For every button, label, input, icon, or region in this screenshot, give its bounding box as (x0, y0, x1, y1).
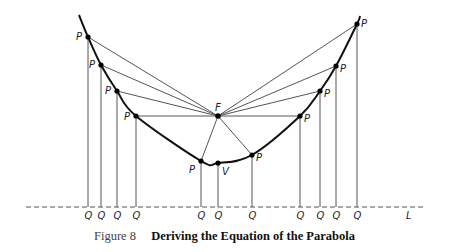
point-P (297, 113, 302, 118)
label-P: P (340, 63, 347, 74)
labels: PQPQPQPQPQPQPQPQPQPQVQFL (76, 18, 412, 221)
label-P: P (304, 113, 311, 124)
focal-segment-PF (201, 116, 218, 161)
label-P: P (256, 152, 263, 163)
label-Q: Q (333, 210, 341, 221)
label-P: P (89, 59, 96, 70)
point-P (133, 113, 138, 118)
label-Q: Q (354, 210, 362, 221)
point-P (354, 21, 359, 26)
label-P: P (124, 111, 131, 122)
figure-number: Figure 8 (94, 229, 136, 243)
label-Q: Q (249, 210, 257, 221)
label-P: P (76, 31, 83, 42)
focus-point (215, 113, 221, 119)
focal-segment-PF (218, 116, 252, 155)
label-P: P (361, 18, 368, 29)
vertex-point (215, 160, 220, 165)
label-V: V (222, 166, 230, 177)
point-P (114, 88, 119, 93)
label-Q: Q (317, 210, 325, 221)
label-Q: Q (198, 210, 206, 221)
label-L: L (406, 210, 412, 221)
label-P: P (189, 164, 196, 175)
point-P (85, 34, 90, 39)
label-Q: Q (114, 210, 122, 221)
label-P: P (324, 88, 331, 99)
figure-caption: Figure 8 Deriving the Equation of the Pa… (0, 229, 449, 244)
figure-title: Deriving the Equation of the Parabola (151, 229, 355, 243)
point-P (317, 88, 322, 93)
parabola-diagram: PQPQPQPQPQPQPQPQPQPQVQFL (0, 0, 449, 252)
label-Q: Q (215, 210, 223, 221)
point-P (98, 62, 103, 67)
point-P (249, 152, 254, 157)
point-P (333, 63, 338, 68)
focal-lines (88, 24, 357, 161)
label-P: P (105, 85, 112, 96)
label-Q: Q (85, 210, 93, 221)
label-F: F (215, 102, 221, 113)
point-P (198, 158, 203, 163)
label-Q: Q (297, 210, 305, 221)
label-Q: Q (98, 210, 106, 221)
label-Q: Q (133, 210, 141, 221)
